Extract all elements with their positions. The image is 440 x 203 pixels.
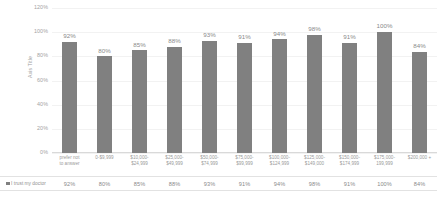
data-table-cell: 92% [52, 181, 87, 187]
bar-value-label: 92% [52, 33, 87, 39]
bar-slot: 93% [192, 8, 227, 153]
bar-value-label: 84% [402, 43, 437, 49]
bar-slot: 92% [52, 8, 87, 153]
y-axis-tick-label: 40% [22, 102, 48, 107]
data-table-cell: 84% [402, 181, 437, 187]
bar-value-label: 80% [87, 48, 122, 54]
bar-slot: 91% [227, 8, 262, 153]
data-table-cell: 85% [122, 181, 157, 187]
bar-slot: 85% [122, 8, 157, 153]
category-label-line: $124,999 [263, 161, 297, 167]
bars-layer: 92%80%85%88%93%91%94%98%91%100%84% [52, 8, 437, 153]
bar-slot: 88% [157, 8, 192, 153]
bar[interactable] [202, 41, 217, 153]
bar[interactable] [272, 39, 287, 153]
x-axis-category-label: $25,000-$49,999 [157, 155, 192, 173]
x-axis-category-label: 0-$9,999 [87, 155, 122, 173]
bar-value-label: 91% [332, 34, 367, 40]
y-axis-tick-label: 80% [22, 54, 48, 59]
y-axis-tick-label: 60% [22, 78, 48, 83]
data-table-cell: 100% [367, 181, 402, 187]
x-axis-category-label: $100,000-$124,999 [262, 155, 297, 173]
data-table-values: 92%80%85%88%93%91%94%98%91%100%84% [52, 177, 437, 190]
bar-value-label: 88% [157, 38, 192, 44]
bar-chart: Axis Title 0%20%40%60%80%100%120% 92%80%… [0, 0, 440, 203]
gridline [52, 153, 437, 154]
bar-slot: 94% [262, 8, 297, 153]
category-label-line: $149,000 [298, 161, 332, 167]
category-label-line: 0-$9,999 [88, 155, 122, 161]
bar[interactable] [377, 32, 392, 153]
data-table-cell: 80% [87, 181, 122, 187]
data-table-cell: 91% [227, 181, 262, 187]
data-table-cell: 91% [332, 181, 367, 187]
x-axis-category-label: $50,000-$74,999 [192, 155, 227, 173]
bar[interactable] [97, 56, 112, 153]
bar[interactable] [307, 35, 322, 153]
data-table-cell: 93% [192, 181, 227, 187]
bar-value-label: 100% [367, 23, 402, 29]
legend-label: I trust my doctor [11, 181, 46, 186]
bar-slot: 100% [367, 8, 402, 153]
y-axis-tick-label: 0% [22, 150, 48, 155]
bar-slot: 91% [332, 8, 367, 153]
bar[interactable] [62, 42, 77, 153]
x-axis-category-label: prefer notto answer [52, 155, 87, 173]
data-table-cell: 88% [157, 181, 192, 187]
y-axis-tick-label: 120% [22, 5, 48, 10]
category-label-line: to answer [53, 161, 87, 167]
data-table: I trust my doctor 92%80%85%88%93%91%94%9… [0, 176, 437, 191]
x-axis-category-label: $125,000-$149,000 [297, 155, 332, 173]
y-axis-tick-label: 20% [22, 126, 48, 131]
bar-slot: 80% [87, 8, 122, 153]
x-axis-category-label: $200,000 + [402, 155, 437, 173]
y-axis-title: Axis Title [27, 39, 33, 95]
x-axis-category-label: $10,000-$24,999 [122, 155, 157, 173]
bar-slot: 98% [297, 8, 332, 153]
category-label-line: $24,999 [123, 161, 157, 167]
bar-value-label: 85% [122, 42, 157, 48]
x-axis-category-label: $150,000-$174,999 [332, 155, 367, 173]
category-label-line: $74,999 [193, 161, 227, 167]
x-axis-category-label: $175,000-199,999 [367, 155, 402, 173]
x-axis-category-labels: prefer notto answer0-$9,999$10,000-$24,9… [52, 155, 437, 173]
bar[interactable] [132, 50, 147, 153]
bar[interactable] [342, 43, 357, 153]
square-marker-icon [6, 182, 10, 186]
bar[interactable] [412, 52, 427, 154]
category-label-line: $99,999 [228, 161, 262, 167]
plot-area: 0%20%40%60%80%100%120% 92%80%85%88%93%91… [52, 8, 437, 153]
bar-value-label: 98% [297, 26, 332, 32]
bar-value-label: 93% [192, 32, 227, 38]
legend-entry: I trust my doctor [0, 181, 52, 186]
bar-slot: 84% [402, 8, 437, 153]
bar-value-label: 91% [227, 34, 262, 40]
data-table-cell: 98% [297, 181, 332, 187]
x-axis-category-label: $75,000-$99,999 [227, 155, 262, 173]
category-label-line: $49,999 [158, 161, 192, 167]
y-axis-tick-label: 100% [22, 29, 48, 34]
category-label-line: $174,999 [333, 161, 367, 167]
category-label-line: 199,999 [368, 161, 402, 167]
category-label-line: $200,000 + [403, 155, 437, 161]
bar[interactable] [237, 43, 252, 153]
bar[interactable] [167, 47, 182, 153]
bar-value-label: 94% [262, 31, 297, 37]
data-table-cell: 94% [262, 181, 297, 187]
